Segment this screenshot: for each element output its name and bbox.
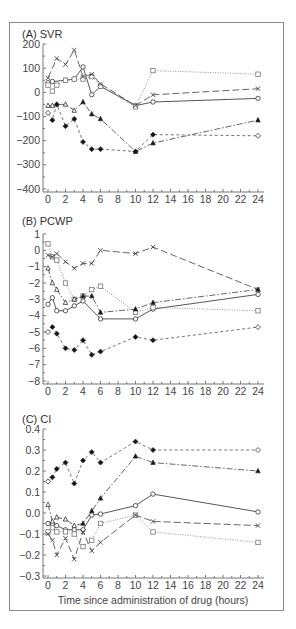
x-tick-label: 16: [182, 385, 194, 397]
data-point-circle-solid: [133, 317, 137, 321]
data-point-square-dotted: [256, 309, 260, 313]
x-tick-label: 18: [200, 385, 212, 397]
data-point-square-dotted: [55, 258, 59, 262]
series-line-triangle-dashdot: [48, 456, 258, 525]
data-point-triangle-dashdot: [90, 111, 94, 115]
x-tick-label: 10: [130, 385, 142, 397]
chart-svg: (A) SVR2001000−100−200−300−4000246810121…: [0, 0, 296, 629]
y-tick-label: −400: [16, 183, 40, 195]
data-point-circle-solid: [81, 65, 85, 69]
x-tick-label: 22: [235, 385, 247, 397]
data-point-diamond-shortdash: [50, 325, 55, 330]
data-point-diamond-shortdash: [89, 352, 94, 357]
data-point-cross-longdash: [50, 538, 54, 542]
data-point-cross-longdash: [72, 557, 76, 561]
data-point-triangle-dashdot: [46, 502, 50, 506]
x-tick-label: 24: [252, 579, 264, 591]
x-tick-label: 14: [165, 579, 177, 591]
data-point-cross-longdash: [55, 56, 59, 60]
x-axis-label: Time since administration of drug (hours…: [58, 594, 248, 606]
data-point-diamond-shortdash: [50, 118, 55, 123]
y-tick-label: −0.3: [19, 570, 40, 582]
x-tick-label: 20: [217, 385, 229, 397]
y-tick-label: 0.1: [25, 486, 40, 498]
data-point-circle-solid: [81, 299, 85, 303]
x-tick-label: 24: [252, 385, 264, 397]
data-point-circle-solid: [98, 317, 102, 321]
x-tick-label: 14: [165, 385, 177, 397]
data-point-square-dotted: [151, 530, 155, 534]
x-tick-label: 0: [45, 193, 51, 205]
data-point-diamond-shortdash: [81, 458, 86, 463]
data-point-circle-solid: [50, 296, 54, 300]
y-tick-label: 0.3: [25, 444, 40, 456]
y-tick-label: 0: [34, 86, 40, 98]
data-point-square-dotted: [63, 281, 67, 285]
data-point-square-dotted: [151, 305, 155, 309]
data-point-square-dotted: [98, 521, 102, 525]
data-point-circle-solid: [72, 528, 76, 532]
data-point-circle-solid: [98, 512, 102, 516]
data-point-square-dotted: [72, 77, 76, 81]
x-tick-label: 16: [182, 193, 194, 205]
series-line-cross-longdash: [48, 247, 258, 289]
x-tick-label: 20: [217, 193, 229, 205]
data-point-diamond-shortdash: [63, 346, 68, 351]
y-tick-label: −200: [16, 134, 40, 146]
data-point-square-dotted: [90, 538, 94, 542]
data-point-triangle-dashdot: [133, 454, 137, 458]
data-point-triangle-dashdot: [256, 118, 260, 122]
data-point-cross-longdash: [151, 245, 155, 249]
data-point-diamond-shortdash: [54, 331, 59, 336]
data-point-circle-solid: [46, 302, 50, 306]
data-point-triangle-dashdot: [90, 293, 94, 297]
data-point-circle-solid: [63, 309, 67, 313]
data-point-circle-solid: [55, 309, 59, 313]
data-point-cross-longdash: [63, 536, 67, 540]
data-point-diamond-shortdash: [151, 448, 156, 453]
data-point-circle-solid: [46, 521, 50, 525]
x-tick-label: 18: [200, 579, 212, 591]
data-point-circle-solid: [256, 292, 260, 296]
x-tick-label: 0: [45, 579, 51, 591]
data-point-circle-solid: [90, 513, 94, 517]
y-tick-label: −2: [28, 277, 40, 289]
x-tick-label: 6: [98, 579, 104, 591]
y-tick-label: 1: [34, 228, 40, 240]
data-point-diamond-shortdash: [89, 147, 94, 152]
data-point-triangle-dashdot: [63, 102, 67, 106]
data-point-triangle-dashdot: [46, 266, 50, 270]
data-point-triangle-dashdot: [151, 300, 155, 304]
data-point-cross-longdash: [98, 248, 102, 252]
x-tick-label: 0: [45, 385, 51, 397]
x-tick-label: 10: [130, 579, 142, 591]
y-tick-label: 0: [34, 244, 40, 256]
x-tick-label: 12: [147, 579, 159, 591]
y-tick-label: 200: [22, 38, 40, 50]
data-point-diamond-shortdash: [98, 460, 103, 465]
x-tick-label: 2: [63, 385, 69, 397]
data-point-triangle-dashdot: [50, 103, 54, 107]
data-point-triangle-dashdot: [81, 99, 85, 103]
data-point-square-dotted: [151, 68, 155, 72]
data-point-triangle-dashdot: [50, 280, 54, 284]
x-tick-label: 20: [217, 579, 229, 591]
data-point-square-dotted: [63, 78, 67, 82]
x-tick-label: 24: [252, 193, 264, 205]
data-point-square-dotted: [256, 72, 260, 76]
data-point-diamond-shortdash: [98, 147, 103, 152]
data-point-diamond-shortdash: [256, 133, 261, 138]
data-point-square-dotted: [63, 530, 67, 534]
y-tick-label: 100: [22, 62, 40, 74]
data-point-cross-longdash: [90, 549, 94, 553]
data-point-triangle-dashdot: [72, 108, 76, 112]
series-line-cross-longdash: [48, 50, 258, 106]
x-tick-label: 14: [165, 193, 177, 205]
data-point-cross-longdash: [72, 266, 76, 270]
x-tick-label: 8: [115, 579, 121, 591]
x-tick-label: 2: [63, 193, 69, 205]
data-point-square-dotted: [55, 83, 59, 87]
data-point-square-dotted: [55, 530, 59, 534]
data-point-triangle-dashdot: [133, 307, 137, 311]
y-tick-label: −7: [28, 358, 40, 370]
